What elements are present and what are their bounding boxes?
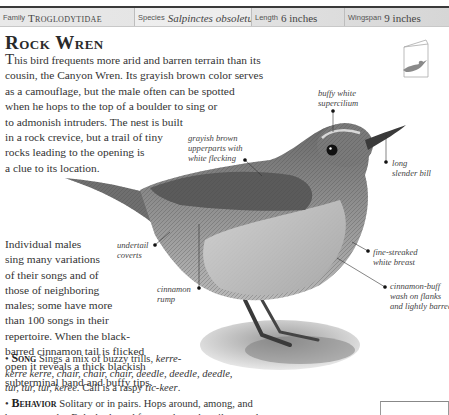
- intro-line: to admonish intruders. The nest is built: [5, 115, 350, 130]
- label-undertail: undertail coverts: [117, 240, 149, 260]
- label-breast: fine-streaked white breast: [373, 247, 418, 267]
- song-fact-cont: tur, tur, tur, keree. Call is a raspy ti…: [5, 381, 335, 396]
- bottom-panel-edge: [380, 401, 449, 415]
- label-rump: cinnamon rump: [157, 284, 191, 304]
- length-cell: Length 6 inches: [252, 8, 345, 26]
- song-fact-cont: kerre kerre, chair, chair, chair, deedle…: [5, 367, 335, 382]
- intro-paragraph: This bird frequents more arid and barren…: [5, 52, 350, 176]
- species-label: Species: [138, 13, 165, 22]
- intro-line: rocks leading to the opening is: [5, 145, 350, 160]
- family-label: Family: [3, 13, 25, 22]
- body-line: repertoire. When the black-: [5, 329, 215, 344]
- label-supercilium: buffy white supercilium: [318, 88, 358, 108]
- bullet-icon: •: [5, 398, 9, 409]
- taxonomy-header: Family Troglodytidae Species Salpinctes …: [0, 8, 449, 27]
- song-fact: • Song Sings a mix of buzzy trills, kerr…: [5, 351, 335, 367]
- behavior-heading: Behavior: [11, 396, 56, 410]
- wingspan-value: 9 inches: [384, 12, 420, 24]
- intro-line: cousin, the Canyon Wren. Its grayish bro…: [5, 68, 350, 83]
- drop-cap: T: [5, 51, 14, 67]
- behavior-fact-cont: between rocks. Bobs body and frequently …: [5, 411, 335, 415]
- intro-line: as a camouflage, but the male often can …: [5, 84, 350, 99]
- intro-line: This bird frequents more arid and barren…: [5, 52, 350, 68]
- label-flanks: cinnamon-buff wash on flanks and lightly…: [390, 281, 449, 311]
- body-line: Individual males: [5, 237, 215, 252]
- song-heading: Song: [11, 351, 36, 365]
- intro-line: in a rock crevice, but a trail of tiny: [5, 130, 350, 145]
- intro-line: when he hops to the top of a boulder to …: [5, 99, 350, 114]
- wingspan-label: Wingspan: [348, 13, 381, 22]
- label-bill: long slender bill: [392, 158, 431, 178]
- species-value: Salpinctes obsoletus: [168, 12, 252, 24]
- book-with-bird-icon: [400, 39, 432, 79]
- page-title: Rock Wren: [5, 33, 104, 53]
- length-value: 6 inches: [281, 12, 317, 24]
- family-value: Troglodytidae: [28, 12, 102, 24]
- bullet-icon: •: [5, 353, 9, 364]
- body-line: of their songs and of: [5, 268, 215, 283]
- facts-list: • Song Sings a mix of buzzy trills, kerr…: [5, 351, 335, 415]
- family-cell: Family Troglodytidae: [0, 8, 135, 26]
- intro-line: a clue to its location.: [5, 161, 350, 176]
- wingspan-cell: Wingspan 9 inches: [345, 8, 449, 26]
- body-line: sing many variations: [5, 252, 215, 267]
- species-cell: Species Salpinctes obsoletus: [135, 8, 252, 26]
- behavior-fact: • Behavior Solitary or in pairs. Hops ar…: [5, 396, 335, 412]
- body-line: than 100 songs in their: [5, 313, 215, 328]
- length-label: Length: [255, 13, 278, 22]
- label-upperparts: grayish brown upperparts with white flec…: [188, 133, 243, 163]
